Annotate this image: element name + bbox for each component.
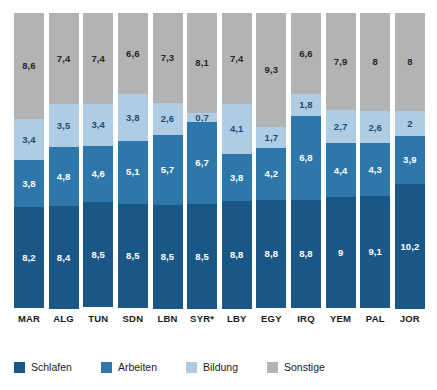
bar-column-yem: 7,92,74,49 [326,13,356,308]
bar-segment-bildung: 2,6 [360,111,390,143]
bar-segment-bildung: 2,7 [326,110,356,143]
bar-column-syr: 8,10,76,78,5 [187,13,217,308]
x-tick-egy: EGY [256,312,286,332]
chart-legend: SchlafenArbeitenBildungSonstige [14,359,354,375]
bar-segment-value: 3,9 [403,155,417,165]
bar-segment-schlafen: 8,4 [49,206,79,309]
bar-segment-arbeiten: 5,1 [118,141,148,204]
bar-segment-arbeiten: 3,9 [395,136,425,184]
legend-item-bildung: Bildung [186,362,238,373]
bar-segment-bildung: 3,5 [49,104,79,147]
legend-item-schlafen: Schlafen [14,362,72,373]
bar-segment-value: 4,3 [368,165,382,175]
bar-segment-schlafen: 9,1 [360,196,390,308]
bar-segment-schlafen: 10,2 [395,184,425,309]
x-tick-sdn: SDN [118,312,148,332]
bar-segment-value: 8,1 [195,58,209,68]
bar-segment-schlafen: 8,8 [222,201,252,309]
bar-segment-value: 8,8 [265,249,279,259]
bar-segment-schlafen: 8,5 [118,204,148,308]
bar-segment-sonstige: 9,3 [256,13,286,127]
bar-segment-bildung: 2,6 [153,103,183,135]
bar-segment-value: 3,8 [126,113,140,123]
legend-swatch-icon [101,362,112,373]
bar-segment-value: 4,1 [230,124,244,134]
bar-segment-arbeiten: 6,7 [187,122,217,204]
bar-segment-value: 7,4 [230,54,244,64]
bar-segment-value: 5,7 [161,165,175,175]
bar-segment-value: 4,6 [91,169,105,179]
bar-segment-arbeiten: 4,8 [49,147,79,206]
bar-segment-value: 7,4 [91,54,105,64]
x-tick-irq: IRQ [291,312,321,332]
x-tick-lby: LBY [222,312,252,332]
bar-segment-value: 6,6 [299,49,313,59]
bar-column-irq: 6,61,86,88,8 [291,13,321,308]
bar-segment-value: 8 [407,57,412,67]
bar-segment-value: 2 [407,119,412,129]
bar-segment-schlafen: 8,2 [14,207,44,308]
bar-segment-bildung: 2 [395,111,425,136]
bar-segment-value: 2,7 [334,122,348,132]
bar-segment-value: 4,8 [57,172,71,182]
bar-segment-value: 8,8 [299,249,313,259]
x-tick-jor: JOR [395,312,425,332]
bar-segment-bildung: 4,1 [222,104,252,154]
bar-segment-sonstige: 6,6 [291,13,321,94]
bar-column-egy: 9,31,74,28,8 [256,13,286,308]
bar-column-lby: 7,44,13,88,8 [222,13,252,308]
bar-segment-sonstige: 6,6 [118,13,148,94]
x-axis-labels: MARALGTUNSDNLBNSYR*LBYEGYIRQYEMPALJOR [14,312,425,332]
bar-segment-arbeiten: 4,4 [326,143,356,197]
bar-segment-bildung: 1,7 [256,127,286,148]
bar-segment-schlafen: 8,8 [256,200,286,308]
bar-segment-bildung: 0,7 [187,113,217,123]
bar-column-tun: 7,43,44,68,5 [83,13,113,308]
bar-segment-value: 8,5 [91,250,105,260]
bar-segment-value: 8 [373,57,378,67]
bar-segment-value: 8,4 [57,253,71,263]
legend-label: Sonstige [284,362,325,373]
bar-segment-value: 8,6 [22,61,36,71]
x-tick-pal: PAL [360,312,390,332]
bar-column-pal: 82,64,39,1 [360,13,390,308]
bar-segment-arbeiten: 4,3 [360,143,390,196]
x-tick-yem: YEM [326,312,356,332]
legend-swatch-icon [14,362,25,373]
bar-segment-value: 4,2 [265,169,279,179]
bar-segment-value: 8,2 [22,253,36,263]
bar-column-alg: 7,43,54,88,4 [49,13,79,308]
bar-segment-value: 0,7 [195,113,209,123]
bar-segment-value: 4,4 [334,166,348,176]
bar-segment-value: 3,8 [22,179,36,189]
bar-segment-value: 9,1 [368,247,382,257]
bar-segment-sonstige: 8 [395,13,425,111]
x-tick-alg: ALG [49,312,79,332]
legend-label: Bildung [203,362,238,373]
bar-segment-bildung: 1,8 [291,94,321,116]
bar-segment-value: 2,6 [161,114,175,124]
bar-column-lbn: 7,32,65,78,5 [153,13,183,308]
bar-segment-sonstige: 8,6 [14,13,44,119]
bar-segment-value: 3,4 [22,135,36,145]
bar-segment-value: 1,8 [299,100,313,110]
bar-segment-value: 7,4 [57,54,71,64]
bar-segment-value: 2,6 [368,123,382,133]
bar-segment-bildung: 3,8 [118,94,148,141]
bar-segment-arbeiten: 6,8 [291,116,321,200]
bar-segment-value: 9,3 [265,65,279,75]
bar-segment-value: 7,9 [334,57,348,67]
legend-swatch-icon [186,362,197,373]
bar-segment-schlafen: 8,5 [153,205,183,309]
bar-segment-value: 8,5 [161,252,175,262]
bar-segment-arbeiten: 5,7 [153,135,183,205]
bar-segment-sonstige: 7,4 [49,13,79,104]
bar-segment-value: 10,2 [400,242,419,252]
bar-segment-bildung: 3,4 [14,119,44,161]
bar-segment-sonstige: 8,1 [187,13,217,113]
legend-label: Schlafen [31,362,72,373]
bar-segment-value: 3,8 [230,173,244,183]
bar-segment-sonstige: 7,9 [326,13,356,110]
bar-segment-value: 3,5 [57,121,71,131]
bar-segment-sonstige: 7,4 [83,13,113,104]
